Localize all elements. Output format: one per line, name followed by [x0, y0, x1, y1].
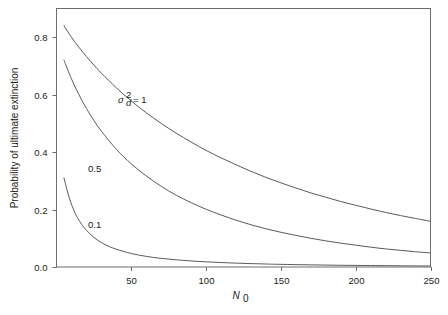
extinction-probability-figure: 50100150200250 0.00.20.40.60.8 Probabili… [0, 0, 448, 315]
x-axis-title-base: N [232, 290, 240, 301]
y-axis-title: Probability of ultimate extinction [9, 68, 20, 209]
curve-label-0-5: 0.5 [88, 163, 101, 174]
sigma-superscript-2: 2 [126, 89, 131, 100]
y-tick-label: 0.0 [34, 262, 47, 273]
x-tick-label: 150 [274, 275, 290, 286]
data-series-group [64, 26, 431, 266]
data-curve [64, 60, 431, 253]
x-axis-title: N 0 [232, 290, 249, 304]
chart-canvas: 50100150200250 0.00.20.40.60.8 Probabili… [0, 0, 448, 315]
x-tick-label: 250 [424, 275, 440, 286]
data-curve [64, 178, 431, 266]
y-tick-label: 0.6 [34, 90, 47, 101]
plot-frame [57, 9, 431, 268]
y-tick-label: 0.4 [34, 147, 47, 158]
x-tick-label: 200 [349, 275, 365, 286]
x-tick-label: 100 [199, 275, 215, 286]
curve-label-0-1: 0.1 [88, 219, 101, 230]
x-axis-ticks [132, 267, 432, 271]
x-axis-title-subscript: 0 [243, 293, 249, 304]
x-axis-tick-labels: 50100150200250 [126, 275, 439, 286]
annotation-sigma-d-squared: σ d 2 = 1 [118, 89, 146, 108]
y-axis-tick-labels: 0.00.20.40.60.8 [34, 32, 47, 273]
data-curve [64, 26, 431, 222]
y-axis-ticks [53, 38, 57, 268]
x-tick-label: 50 [126, 275, 137, 286]
y-tick-label: 0.8 [34, 32, 47, 43]
y-tick-label: 0.2 [34, 205, 47, 216]
sigma-equals-one: = 1 [133, 94, 146, 105]
sigma-symbol: σ [118, 94, 125, 105]
